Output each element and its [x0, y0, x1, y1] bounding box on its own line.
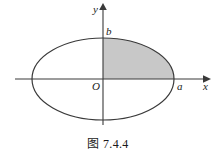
y-axis-arrowhead [99, 3, 107, 10]
figure-container: y b O a x 图 7.4.4 [0, 0, 216, 159]
figure-caption: 图 7.4.4 [0, 134, 216, 152]
y-intercept-label-b: b [106, 26, 112, 37]
origin-label: O [92, 81, 100, 92]
x-axis-label: x [203, 81, 208, 92]
y-axis-label: y [93, 4, 98, 15]
shaded-quarter-region [103, 38, 174, 79]
x-intercept-label-a: a [177, 81, 183, 92]
